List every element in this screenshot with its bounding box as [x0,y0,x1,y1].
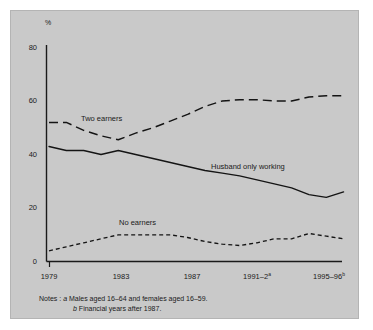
x-tick-label-1979: 1979 [41,272,58,281]
line-chart-plot: % 80 60 40 20 0 Two earners Husband only… [11,11,360,320]
note-line-b: b Financial years after 1987. [39,304,339,314]
x-tick-label-1995-96: 1995–96b [313,271,345,281]
series-label-two-earners: Two earners [81,114,123,123]
note-text-b: Financial years after 1987. [77,305,161,312]
y-axis-unit-label: % [45,19,51,26]
y-tick-label-60: 60 [29,96,37,105]
chart-figure-panel: % 80 60 40 20 0 Two earners Husband only… [10,10,359,319]
x-tick-superscript-b: b [342,271,345,277]
y-tick-label-80: 80 [29,43,37,52]
x-tick-label-1987: 1987 [184,272,201,281]
series-label-no-earners: No earners [119,218,156,227]
x-tick-label-1991-2: 1991–2a [243,271,271,281]
series-line-no-earners [49,234,344,251]
y-tick-label-40: 40 [29,150,37,159]
x-tick-superscript-a: a [268,271,271,277]
y-tick-label-0: 0 [33,257,37,266]
note-line-a: Notes : a Males aged 16–64 and females a… [39,294,339,304]
series-line-husband-only-working [49,147,344,198]
notes-prefix: Notes : [39,295,63,302]
chart-notes: Notes : a Males aged 16–64 and females a… [39,294,339,313]
series-label-husband-only-working: Husband only working [211,162,285,171]
y-tick-label-20: 20 [29,203,37,212]
note-text-a: Males aged 16–64 and females aged 16–59. [67,295,208,302]
x-tick-label-1983: 1983 [113,272,130,281]
